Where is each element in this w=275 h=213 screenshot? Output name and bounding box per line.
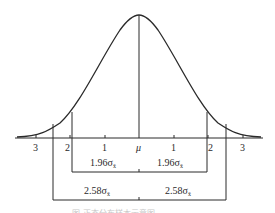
tick-label-left-1: 1: [102, 142, 107, 153]
tick-label-right-2: 2: [208, 142, 213, 153]
interval-label-2-58-right: 2.58σx̄: [165, 185, 191, 197]
normal-distribution-diagram: 3 2 1 μ 1 2 3 1.96σx̄ 1.96σx̄ 2.58σx̄ 2.…: [0, 0, 275, 213]
mean-label: μ: [135, 142, 141, 153]
tick-label-left-2: 2: [65, 142, 70, 153]
interval-label-2-58-left: 2.58σx̄: [84, 185, 110, 197]
interval-label-1-96-right: 1.96σx̄: [157, 157, 183, 169]
tick-label-right-3: 3: [240, 142, 245, 153]
figure-caption: 图 正态分布样本示意图: [72, 208, 155, 213]
tick-label-left-3: 3: [33, 142, 38, 153]
interval-label-1-96-left: 1.96σx̄: [90, 157, 116, 169]
tick-label-right-1: 1: [171, 142, 176, 153]
